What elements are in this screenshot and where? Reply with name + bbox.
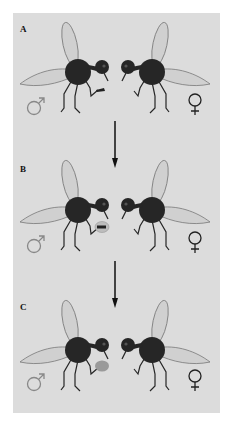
panel-label-b: B xyxy=(20,164,26,174)
female-symbol-icon xyxy=(189,232,201,253)
panel-a: A xyxy=(20,21,210,115)
arrow-b-to-c xyxy=(112,261,118,308)
panel-c: C xyxy=(20,299,210,391)
female-fly-icon xyxy=(121,299,210,391)
male-fly-icon xyxy=(20,159,109,251)
courtship-diagram: A B C xyxy=(0,0,229,424)
panel-label-c: C xyxy=(20,302,27,312)
female-fly-icon xyxy=(121,159,210,251)
panel-b: B xyxy=(20,159,210,253)
arrow-down-icon xyxy=(112,298,118,308)
female-symbol-icon xyxy=(189,94,201,115)
female-fly-icon xyxy=(121,21,210,113)
male-symbol-icon xyxy=(28,236,45,253)
arrow-down-icon xyxy=(112,158,118,168)
nuptial-gift-icon xyxy=(96,88,105,92)
arrow-a-to-b xyxy=(112,121,118,168)
male-fly-icon xyxy=(20,21,109,113)
female-symbol-icon xyxy=(189,370,201,391)
wrapped-gift-icon xyxy=(95,222,109,233)
panel-label-a: A xyxy=(20,24,27,34)
male-symbol-icon xyxy=(28,374,45,391)
balloon-gift-icon xyxy=(95,361,109,372)
male-symbol-icon xyxy=(28,98,45,115)
